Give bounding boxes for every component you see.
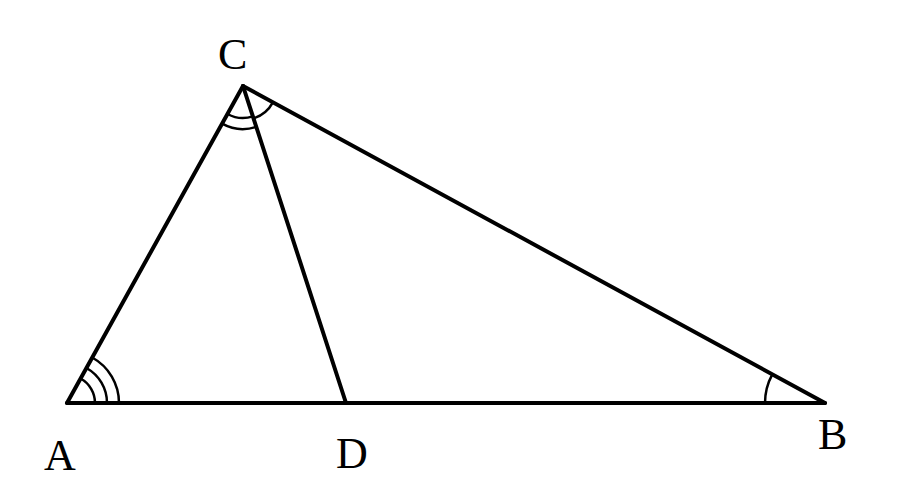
angle-mark-b — [765, 374, 772, 403]
label-d: D — [336, 429, 368, 478]
label-a: A — [44, 431, 76, 480]
triangle-diagram: A B C D — [0, 0, 901, 489]
label-c: C — [218, 30, 247, 79]
label-b: B — [818, 410, 847, 459]
segment-ac — [67, 86, 243, 403]
angle-mark-dcb — [254, 102, 273, 118]
